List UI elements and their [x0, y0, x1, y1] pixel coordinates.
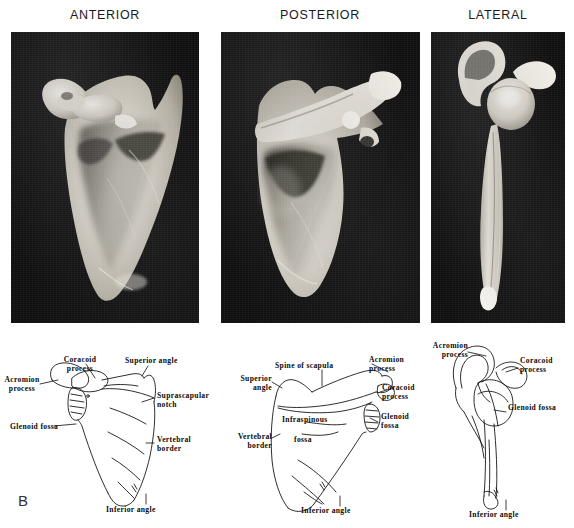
posterior-photo: [221, 32, 420, 323]
label-coracoid-process-anterior: Coracoid process: [56, 356, 104, 373]
posterior-bone-photo-art: [221, 32, 420, 323]
view-heading-lateral: LATERAL: [438, 8, 558, 22]
label-inferior-angle-lateral: Inferior angle: [469, 511, 539, 520]
label-vertebral-border-posterior: Vertebral border: [226, 433, 272, 450]
label-infraspinous-fossa-word: fossa: [294, 436, 328, 445]
label-superior-angle-posterior: Superior angle: [228, 375, 272, 392]
panel-letter-b: B: [18, 492, 28, 509]
view-heading-anterior: ANTERIOR: [45, 8, 165, 22]
label-acromion-process-anterior: Acromion process: [0, 376, 44, 393]
lateral-bone-photo-art: [431, 32, 565, 323]
label-coracoid-process-posterior: Coracoid process: [382, 384, 428, 401]
label-acromion-process-posterior: Acromion process: [369, 356, 419, 373]
label-coracoid-process-lateral: Coracoid process: [520, 357, 570, 374]
anatomy-figure: ANTERIOR POSTERIOR LATERAL: [0, 0, 574, 528]
anterior-bone-photo-art: [11, 32, 199, 323]
label-glenoid-fossa-anterior: Glenoid fossa: [10, 423, 72, 432]
label-glenoid-fossa-posterior: Glenoid fossa: [381, 413, 423, 430]
label-superior-angle-anterior: Superior angle: [125, 357, 187, 366]
label-acromion-process-lateral: Acromion process: [418, 342, 468, 359]
label-suprascapular-notch: Suprascapular notch: [157, 392, 219, 409]
label-spine-of-scapula: Spine of scapula: [275, 362, 355, 371]
label-glenoid-fossa-lateral: Glenoid fossa: [508, 404, 574, 413]
label-inferior-angle-posterior: Inferior angle: [301, 507, 371, 516]
label-inferior-angle-anterior: Inferior angle: [106, 506, 176, 515]
label-infraspinous: Infraspinous: [282, 416, 344, 425]
anterior-photo: [11, 32, 199, 323]
lateral-photo: [431, 32, 565, 323]
label-vertebral-border-anterior: Vertebral border: [157, 436, 205, 453]
view-heading-posterior: POSTERIOR: [260, 8, 380, 22]
